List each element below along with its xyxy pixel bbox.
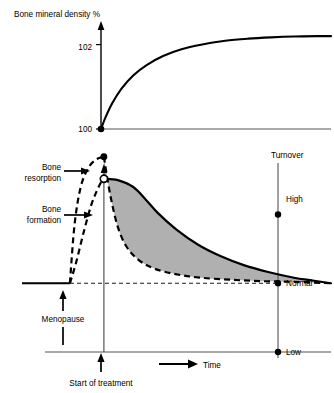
bone-resorption-label-line2: resorption xyxy=(25,174,62,183)
turnover-tick-low-dot xyxy=(275,349,281,355)
time-axis-label: Time xyxy=(203,361,221,370)
turnover-tick-label-high: High xyxy=(286,195,303,204)
turnover-tick-high-dot xyxy=(275,211,281,217)
time-axis-arrow xyxy=(159,360,198,369)
start-of-treatment-pointer-arrow xyxy=(97,353,104,372)
start-of-treatment-axis xyxy=(101,164,107,352)
start-of-treatment-label: Start of treatment xyxy=(69,379,133,388)
turnover-tick-normal-dot xyxy=(275,280,281,286)
resorption-peak-marker xyxy=(100,153,107,160)
menopause-label: Menopause xyxy=(42,315,85,324)
treatment-start-marker xyxy=(100,175,107,182)
bone-resorption-label-line1: Bone xyxy=(42,163,62,172)
turnover-tick-label-low: Low xyxy=(286,348,301,357)
figure-container: Bone mineral density % 102 100 xyxy=(0,0,334,393)
bone-formation-label-line1: Bone xyxy=(42,205,62,214)
turnover-axis-title: Turnover xyxy=(271,151,304,160)
turnover-tick-label-normal: Normal xyxy=(286,279,313,288)
turnover-gap-shading xyxy=(104,157,331,283)
bone-turnover-chart: High Normal Low Turnover Bone resorption… xyxy=(0,0,334,393)
bone-formation-label-line2: formation xyxy=(27,216,62,225)
